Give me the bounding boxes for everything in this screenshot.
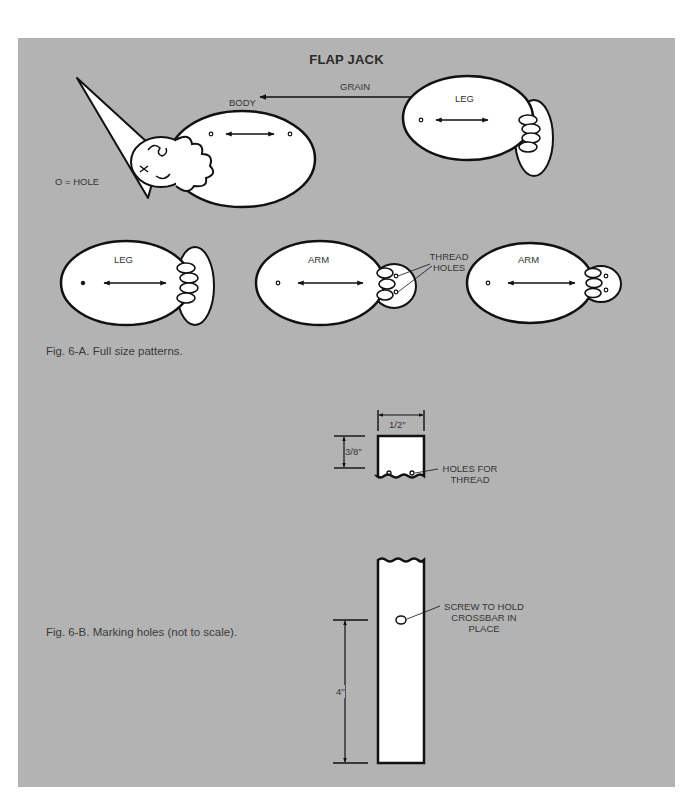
holes-for-thread-callout: HOLES FOR THREAD (440, 463, 500, 485)
arm-pattern-icon (256, 241, 432, 325)
caption-fig-6a: Fig. 6-A. Full size patterns. (46, 345, 183, 357)
thread-holes-label: THREAD HOLES (428, 251, 470, 273)
body-label: BODY (229, 97, 256, 108)
screw-callout: SCREW TO HOLD CROSSBAR IN PLACE (440, 601, 528, 634)
pattern-drawings (18, 38, 675, 787)
leg-label-2: LEG (114, 254, 133, 265)
holes-for-thread-line-1: HOLES FOR (440, 463, 500, 474)
stick-top-piece-icon (377, 436, 424, 478)
arm-label-2: ARM (518, 254, 539, 265)
leg-pattern-icon (403, 76, 553, 176)
caption-fig-6b: Fig. 6-B. Marking holes (not to scale). (46, 626, 237, 638)
arm-label: ARM (308, 254, 329, 265)
grain-label: GRAIN (340, 81, 370, 92)
screw-line-3: PLACE (440, 623, 528, 634)
holes-for-thread-line-2: THREAD (440, 474, 500, 485)
thread-holes-line-1: THREAD (428, 251, 470, 262)
screw-offset-label: 4′′ (336, 685, 345, 698)
screw-line-2: CROSSBAR IN (440, 612, 528, 623)
screw-line-1: SCREW TO HOLD (440, 601, 528, 612)
width-dimension-label: 1/2′′ (389, 419, 406, 430)
leg-pattern-icon-2 (61, 241, 214, 325)
leg-label: LEG (455, 93, 474, 104)
figure-panel: FLAP JACK (18, 38, 675, 787)
thread-holes-line-2: HOLES (428, 262, 470, 273)
stick-bottom-piece-icon (378, 559, 424, 764)
arm-pattern-icon-2 (467, 243, 621, 323)
hole-offset-label: 3/8′′ (345, 446, 362, 457)
hole-legend: O = HOLE (55, 176, 99, 187)
